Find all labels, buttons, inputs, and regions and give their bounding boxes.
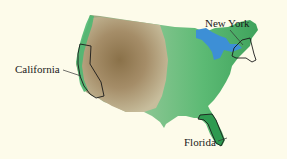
us-relief-map: California New York Florida [0, 0, 287, 159]
florida-label: Florida [184, 137, 216, 148]
new-york-label: New York [205, 18, 250, 29]
western-highlands [80, 17, 168, 112]
california-label: California [15, 64, 60, 75]
